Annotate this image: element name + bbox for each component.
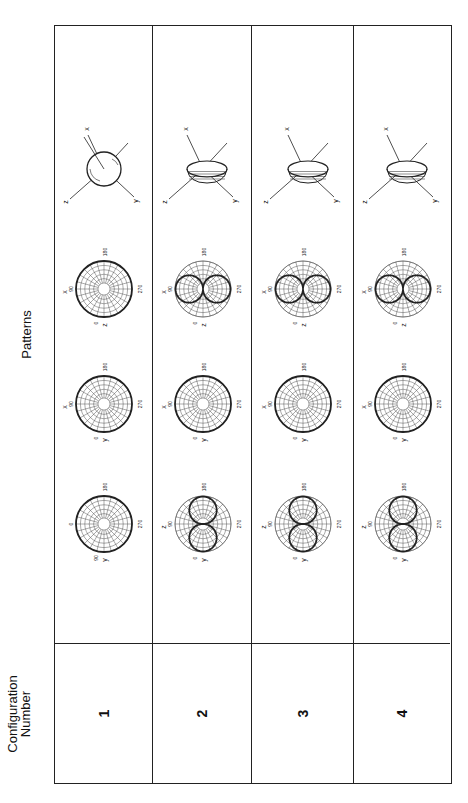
config-row: 2y0180270z90y0180270x90z0180270x90yxz — [152, 26, 251, 783]
axis-label-y: y — [332, 199, 340, 203]
pattern-polar-cell: y0180270x90 — [258, 359, 359, 449]
angle-label-270: 270 — [236, 520, 242, 529]
axis-label-x: x — [83, 127, 90, 131]
pattern-3d-cell: yxz — [256, 114, 357, 224]
pattern-3d-cell: yxz — [355, 114, 451, 224]
angle-label-top: 90 — [167, 521, 173, 527]
polar-pattern-plot: y901802700 — [59, 479, 149, 569]
axis-label-top: y — [400, 438, 408, 442]
angle-label-top: 90 — [167, 401, 173, 407]
axis-label-side: z — [160, 525, 167, 529]
axis-label-top: z — [300, 323, 307, 327]
3d-pattern-plot: yxz — [355, 114, 450, 224]
patterns-table: 1y901802700y0180270x90z0180270x90yxz2y01… — [54, 25, 452, 784]
angle-label: 0 — [192, 436, 198, 439]
angle-label-top: 90 — [68, 401, 74, 407]
axis-label-top: y — [101, 438, 109, 442]
axis-label-y: y — [231, 199, 239, 203]
polar-pattern-plot: y0180270z90 — [358, 479, 448, 569]
angle-label-180: 180 — [102, 363, 108, 372]
angle-label-top: 90 — [267, 521, 273, 527]
angle-label: 0 — [392, 321, 398, 324]
pattern-polar-cell: y0180270x90 — [59, 359, 156, 449]
polar-pattern-plot: y0180270z90 — [258, 479, 348, 569]
angle-label-180: 180 — [401, 248, 407, 257]
angle-label-top: 90 — [267, 401, 273, 407]
angle-label-180: 180 — [401, 483, 407, 492]
pattern-3d-cell: yxz — [56, 114, 153, 224]
angle-label-top: 90 — [68, 286, 74, 292]
polar-pattern-plot: y0180270z90 — [158, 479, 248, 569]
axis-label-top: z — [200, 323, 207, 327]
angle-label-180: 180 — [201, 363, 207, 372]
angle-label: 0 — [392, 436, 398, 439]
angle-label-180: 180 — [102, 483, 108, 492]
axis-label-side: z — [360, 525, 367, 529]
pattern-polar-cell: z0180270x90 — [59, 244, 156, 334]
axis-label-side: x — [160, 405, 167, 409]
polar-pattern-plot: y0180270x90 — [258, 359, 348, 449]
axis-label-side: x — [61, 290, 68, 294]
angle-label-180: 180 — [301, 483, 307, 492]
angle-label-top: 90 — [367, 401, 373, 407]
axis-label-side: x — [61, 405, 68, 409]
3d-pattern-plot: yxz — [56, 114, 151, 224]
polar-pattern-plot: y0180270x90 — [158, 359, 248, 449]
pattern-polar-cell: y0180270z90 — [258, 479, 359, 569]
polar-pattern-plot: z0180270x90 — [59, 244, 149, 334]
angle-label-270: 270 — [236, 285, 242, 294]
angle-label-270: 270 — [436, 520, 442, 529]
angle-label-270: 270 — [137, 285, 143, 294]
config-row: 4y0180270z90y0180270x90z0180270x90yxz — [353, 26, 450, 783]
pattern-polar-cell: y0180270z90 — [158, 479, 256, 569]
polar-pattern-plot: z0180270x90 — [158, 244, 248, 334]
axis-label-top: y — [200, 438, 208, 442]
angle-label-270: 270 — [137, 400, 143, 409]
axis-label-top: z — [101, 323, 108, 327]
angle-label: 90 — [93, 555, 99, 561]
angle-label-270: 270 — [336, 400, 342, 409]
angle-label: 0 — [93, 321, 99, 324]
pattern-polar-cell: z0180270x90 — [158, 244, 256, 334]
pattern-polar-cell: z0180270x90 — [258, 244, 359, 334]
angle-label-180: 180 — [301, 363, 307, 372]
angle-label-180: 180 — [301, 248, 307, 257]
polar-pattern-plot: y0180270x90 — [59, 359, 149, 449]
axis-label-top: y — [300, 438, 308, 442]
axis-label-side: z — [260, 525, 267, 529]
axis-label-side: x — [360, 405, 367, 409]
angle-label: 0 — [292, 436, 298, 439]
angle-label-270: 270 — [336, 520, 342, 529]
config-number: 1 — [55, 643, 152, 783]
angle-label-270: 270 — [336, 285, 342, 294]
angle-label-270: 270 — [436, 400, 442, 409]
axis-label-side: x — [360, 290, 367, 294]
angle-label: 0 — [192, 556, 198, 559]
angle-label-180: 180 — [102, 248, 108, 257]
angle-label-270: 270 — [236, 400, 242, 409]
angle-label-top: 90 — [367, 521, 373, 527]
pattern-polar-cell: y0180270x90 — [358, 359, 454, 449]
config-row: 3y0180270z90y0180270x90z0180270x90yxz — [251, 26, 353, 783]
axis-label-top: z — [400, 323, 407, 327]
axis-label-top: y — [101, 558, 109, 562]
axis-label-side: x — [260, 405, 267, 409]
angle-label-180: 180 — [201, 248, 207, 257]
axis-label-top: y — [400, 558, 408, 562]
pattern-polar-cell: y0180270z90 — [358, 479, 454, 569]
angle-label-270: 270 — [436, 285, 442, 294]
config-row: 1y901802700y0180270x90z0180270x90yxz — [55, 26, 152, 783]
axis-label-y: y — [132, 199, 140, 203]
axis-label-top: y — [200, 558, 208, 562]
angle-label-180: 180 — [401, 363, 407, 372]
axis-label-z: z — [361, 200, 368, 204]
axis-label-z: z — [161, 200, 168, 204]
rotated-figure: Configuration Number Patterns 1y90180270… — [0, 0, 468, 803]
angle-label: 0 — [93, 436, 99, 439]
config-number: 3 — [252, 643, 353, 783]
pattern-polar-cell: z0180270x90 — [358, 244, 454, 334]
axis-label-x: x — [283, 127, 290, 131]
angle-label: 0 — [392, 556, 398, 559]
pattern-polar-cell: y901802700 — [59, 479, 156, 569]
axis-label-side: x — [160, 290, 167, 294]
